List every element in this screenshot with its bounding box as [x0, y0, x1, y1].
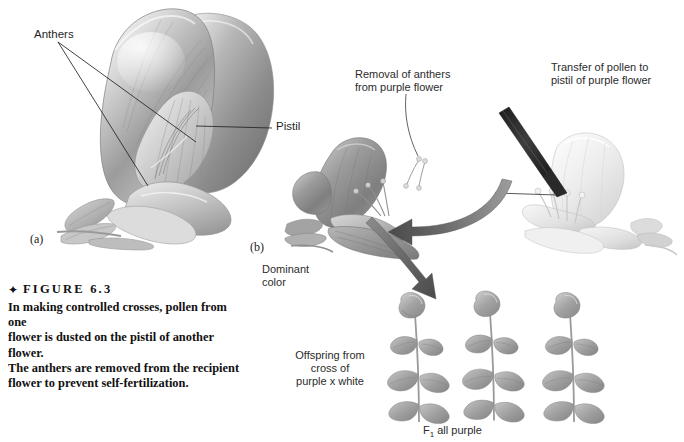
label-pistil: Pistil — [276, 120, 300, 132]
panel-letter-a: (a) — [30, 232, 43, 247]
panel-letter-b: (b) — [250, 240, 264, 255]
offspring-plant-2 — [460, 288, 530, 428]
figure-heading: ✦ FIGURE 6.3 — [8, 282, 112, 297]
removal-leader-line — [380, 92, 450, 172]
label-anthers: Anthers — [34, 28, 74, 40]
offspring-plant-1 — [385, 292, 455, 427]
figure-diamond-icon: ✦ — [8, 284, 18, 296]
f1-suffix: all purple — [434, 424, 482, 436]
label-transfer-of-pollen: Transfer of pollen to pistil of purple f… — [551, 61, 651, 87]
f1-prefix: F — [423, 424, 430, 436]
figure-number: FIGURE 6.3 — [23, 282, 112, 297]
label-offspring-cross: Offspring from cross of purple x white — [280, 349, 380, 388]
label-dominant-color: Dominant color — [262, 263, 309, 289]
cross-arrows — [280, 175, 580, 305]
label-removal-of-anthers: Removal of anthers from purple flower — [355, 68, 450, 94]
offspring-plant-3 — [540, 292, 610, 427]
figure-canvas: Anthers Pistil (a) ✦ FIGURE 6.3 In makin… — [0, 0, 684, 442]
figure-caption: In making controlled crosses, pollen fro… — [8, 300, 248, 391]
label-f1-all-purple: F1 all purple — [423, 424, 482, 441]
